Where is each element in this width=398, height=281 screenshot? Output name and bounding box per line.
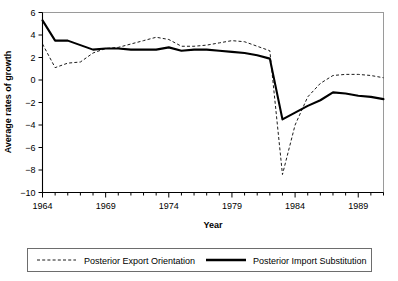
y-tick-label: −8 — [25, 165, 35, 175]
legend-label-export-orientation: Posterior Export Orientation — [84, 256, 195, 266]
x-axis-title: Year — [203, 220, 223, 230]
y-tick-label: 2 — [30, 53, 35, 63]
x-tick-label: 1979 — [222, 201, 242, 211]
y-tick-label: 4 — [30, 30, 35, 40]
x-tick-label: 1984 — [285, 201, 305, 211]
y-tick-label: 6 — [30, 8, 35, 18]
x-major-tick-marks — [43, 193, 359, 198]
y-axis: 6420−2−4−6−8−10 Average rates of growth — [3, 8, 43, 198]
x-tick-label: 1964 — [32, 201, 52, 211]
line-chart: 6420−2−4−6−8−10 Average rates of growth … — [0, 0, 398, 281]
legend-label-import-substitution: Posterior Import Substitution — [253, 256, 367, 266]
x-tick-label: 1989 — [348, 201, 368, 211]
y-tick-label: −10 — [20, 188, 35, 198]
plot-area — [43, 13, 384, 193]
y-tick-label: −4 — [25, 120, 35, 130]
figure: 6420−2−4−6−8−10 Average rates of growth … — [0, 0, 398, 281]
y-axis-title: Average rates of growth — [3, 51, 13, 154]
x-tick-label: 1974 — [159, 201, 179, 211]
plot-frame — [43, 13, 384, 193]
y-tick-label: 0 — [30, 75, 35, 85]
y-tick-labels: 6420−2−4−6−8−10 — [20, 8, 35, 198]
x-tick-labels: 196419691974197919841989 — [32, 201, 368, 211]
y-tick-label: −2 — [25, 98, 35, 108]
y-tick-marks — [39, 13, 43, 193]
y-tick-label: −6 — [25, 143, 35, 153]
x-axis: 196419691974197919841989 Year — [32, 193, 383, 231]
legend: Posterior Export Orientation Posterior I… — [28, 249, 372, 272]
x-tick-label: 1969 — [96, 201, 116, 211]
